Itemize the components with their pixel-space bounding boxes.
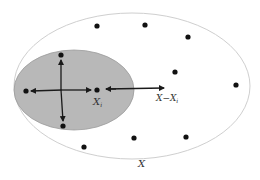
outer-point — [94, 23, 99, 28]
outer-point — [233, 82, 238, 87]
outer-point — [131, 135, 136, 140]
outer-set-label: X — [137, 158, 146, 169]
outer-point — [183, 134, 188, 139]
center-point-xi — [94, 87, 99, 92]
complement-label: X−Xi — [155, 93, 178, 104]
inner-point — [23, 88, 28, 93]
inner-point — [58, 52, 63, 57]
outer-point — [142, 22, 147, 27]
set-diagram: Xi X−Xi X — [0, 0, 260, 180]
outer-point — [185, 34, 190, 39]
inner-point — [60, 123, 65, 128]
outer-point — [81, 144, 86, 149]
outer-point — [172, 69, 177, 74]
